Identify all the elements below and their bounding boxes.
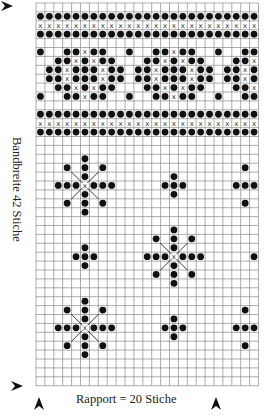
dot-stitch (90, 324, 97, 331)
dot-stitch (108, 57, 115, 64)
cross-stitch: x (83, 93, 87, 101)
dot-stitch (242, 342, 249, 349)
dot-stitch (64, 164, 71, 171)
cross-stitch: x (74, 120, 78, 128)
cross-stitch: x (118, 120, 122, 128)
cross-stitch: x (190, 22, 194, 30)
dot-stitch (64, 31, 71, 38)
dot-stitch (179, 13, 186, 20)
dot-stitch (82, 191, 89, 198)
dot-stitch (153, 31, 160, 38)
dot-stitch (117, 31, 124, 38)
dot-stitch (99, 84, 106, 91)
cross-stitch: x (127, 120, 131, 128)
dot-stitch (242, 93, 249, 100)
dot-stitch (99, 182, 106, 189)
dot-stitch (126, 49, 133, 56)
dot-stitch (135, 66, 142, 73)
dot-stitch (73, 49, 80, 56)
dot-stitch (233, 111, 240, 118)
dot-stitch (242, 164, 249, 171)
dot-stitch (90, 66, 97, 73)
dot-stitch (73, 31, 80, 38)
dot-stitch (251, 31, 258, 38)
dot-stitch (46, 75, 53, 82)
dot-stitch (126, 31, 133, 38)
dot-stitch (162, 182, 169, 189)
dot-stitch (188, 57, 195, 64)
cross-stitch: x (252, 22, 256, 30)
cross-stitch: x (65, 120, 69, 128)
dot-stitch (251, 66, 258, 73)
dot-stitch (171, 227, 178, 234)
dot-stitch (64, 342, 71, 349)
dot-stitch (179, 324, 186, 331)
dot-stitch (90, 49, 97, 56)
cross-stitch: x (83, 22, 87, 30)
dot-stitch (206, 31, 213, 38)
dot-stitch (90, 31, 97, 38)
dot-stitch (144, 253, 151, 260)
dot-stitch (55, 84, 62, 91)
dot-stitch (82, 316, 89, 323)
dot-stitch (99, 31, 106, 38)
dot-stitch (171, 84, 178, 91)
cross-stitch: x (190, 66, 194, 74)
dot-stitch (153, 93, 160, 100)
dot-stitch (206, 75, 213, 82)
cross-stitch: x (154, 75, 158, 83)
dot-stitch (55, 57, 62, 64)
dot-stitch (90, 182, 97, 189)
dot-stitch (171, 173, 178, 180)
dot-stitch (135, 13, 142, 20)
dot-stitch (82, 253, 89, 260)
dot-stitch (46, 31, 53, 38)
dot-stitch (171, 280, 178, 287)
cross-stitch: x (181, 120, 185, 128)
dot-stitch (179, 75, 186, 82)
dot-stitch (117, 13, 124, 20)
dot-stitch (171, 129, 178, 136)
dot-stitch (99, 129, 106, 136)
dot-stitch (37, 49, 44, 56)
dot-stitch (55, 66, 62, 73)
cross-stitch: x (243, 120, 247, 128)
dot-stitch (99, 164, 106, 171)
cross-stitch: x (190, 120, 194, 128)
knitting-chart: xxxxxxxxxxxxxxxxxxxxxxxxxxxxxxxxxxxxxxxx… (0, 0, 274, 419)
dot-stitch (82, 31, 89, 38)
dot-stitch (233, 84, 240, 91)
dot-stitch (242, 182, 249, 189)
repeat-label: Rapport = 20 Stiche (76, 392, 176, 407)
dot-stitch (135, 111, 142, 118)
dot-stitch (108, 129, 115, 136)
dot-stitch (117, 75, 124, 82)
cross-stitch: x (101, 75, 105, 83)
dot-stitch (251, 13, 258, 20)
dot-stitch (171, 111, 178, 118)
cross-stitch: x (243, 75, 247, 83)
dot-stitch (171, 262, 178, 269)
dot-stitch (108, 84, 115, 91)
dot-stitch (162, 253, 169, 260)
dot-stitch (179, 66, 186, 73)
cross-stitch: x (252, 120, 256, 128)
dot-stitch (55, 75, 62, 82)
dot-stitch (144, 84, 151, 91)
dot-stitch (215, 129, 222, 136)
dot-stitch (126, 93, 133, 100)
dot-stitch (126, 129, 133, 136)
dot-stitch (251, 324, 258, 331)
cross-stitch: x (225, 22, 229, 30)
dot-stitch (233, 66, 240, 73)
dot-stitch (99, 342, 106, 349)
dot-stitch (82, 84, 89, 91)
dot-stitch (82, 111, 89, 118)
dot-stitch (233, 324, 240, 331)
dot-stitch (90, 13, 97, 20)
dot-stitch (224, 111, 231, 118)
dot-stitch (46, 13, 53, 20)
dot-stitch (144, 13, 151, 20)
dot-stitch (171, 66, 178, 73)
dot-stitch (153, 13, 160, 20)
